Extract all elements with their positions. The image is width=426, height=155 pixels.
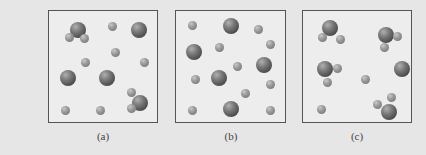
panel-a-label: (a) [83,130,123,142]
small-atom [254,25,263,34]
small-atom [188,106,197,115]
panel-b-label: (b) [211,130,251,142]
small-atom [65,33,74,42]
small-atom [108,22,117,31]
large-atom [211,70,227,86]
large-atom [394,61,410,77]
small-atom [266,80,275,89]
small-atom [323,78,332,87]
panel-b [175,10,286,123]
panel-c [302,10,412,123]
small-atom [361,75,370,84]
small-atom [318,33,327,42]
small-atom [333,64,342,73]
large-atom [378,27,394,43]
small-atom [266,40,275,49]
small-atom [233,62,242,71]
small-atom [241,89,250,98]
small-atom [387,93,396,102]
large-atom [99,70,115,86]
small-atom [393,32,402,41]
small-atom [191,75,200,84]
small-atom [81,58,90,67]
small-atom [80,34,89,43]
small-atom [127,104,136,113]
small-atom [317,105,326,114]
small-atom [336,35,345,44]
small-atom [215,43,224,52]
large-atom [60,70,76,86]
large-atom [256,57,272,73]
panel-c-label: (c) [337,130,377,142]
small-atom [380,43,389,52]
large-atom [223,18,239,34]
small-atom [111,48,120,57]
large-atom [317,61,333,77]
small-atom [61,106,70,115]
panel-a [48,10,158,123]
large-atom [381,104,397,120]
small-atom [373,100,382,109]
small-atom [140,58,149,67]
large-atom [131,22,147,38]
small-atom [188,21,197,30]
small-atom [96,106,105,115]
small-atom [266,106,275,115]
large-atom [223,101,239,117]
large-atom [186,44,202,60]
